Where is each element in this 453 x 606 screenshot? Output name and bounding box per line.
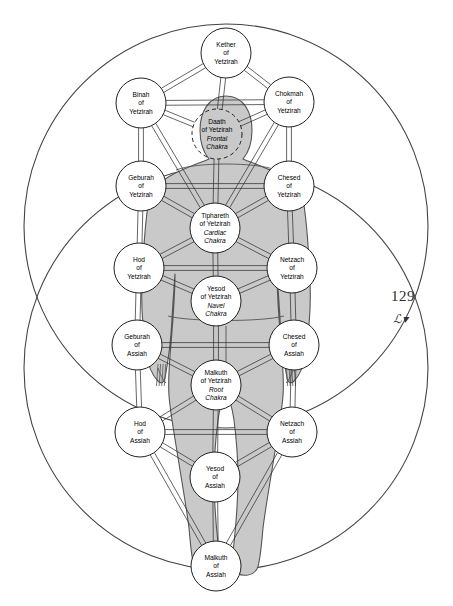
node-label-line: Chesed bbox=[283, 333, 306, 340]
node-label-line: of bbox=[286, 98, 292, 105]
node-label-line: Tiphareth bbox=[201, 212, 229, 220]
node-label-line: Geburah bbox=[124, 333, 150, 340]
node-label-line: of bbox=[212, 473, 218, 480]
node-label-line: of bbox=[291, 341, 297, 348]
node-label-line: Assiah bbox=[282, 437, 302, 444]
node-label-line: Yetzirah bbox=[129, 191, 153, 198]
tree-path-binah-yetzirah-to-daath-yetzirah bbox=[163, 110, 195, 127]
node-label-line: of bbox=[136, 264, 142, 271]
sephirah-netzach-yetzirah[interactable]: NetzachofYetzirah bbox=[267, 243, 317, 293]
sephirah-hod-assiah[interactable]: HodofAssiah bbox=[115, 407, 165, 457]
page-ornament-icon: ℒ▾ bbox=[393, 312, 437, 327]
node-label-line: Assiah bbox=[205, 482, 225, 489]
node-label-line: of Yetzirah bbox=[201, 293, 232, 300]
node-label-line: Yetzirah bbox=[280, 273, 304, 280]
node-label-line: Chakra bbox=[206, 143, 228, 150]
node-label-line: Chakra bbox=[204, 237, 226, 244]
sephirah-hod-yetzirah[interactable]: HodofYetzirah bbox=[114, 243, 164, 293]
node-label-line: Assiah bbox=[130, 437, 150, 444]
sephirah-geburah-yetzirah[interactable]: GeburahofYetzirah bbox=[116, 161, 166, 211]
node-label-line: of bbox=[134, 341, 140, 348]
sephirah-kether-yetzirah[interactable]: KetherofYetzirah bbox=[201, 28, 251, 78]
node-label-line: Yetzirah bbox=[277, 191, 301, 198]
sephirah-geburah-assiah[interactable]: GeburahofAssiah bbox=[112, 320, 162, 370]
tree-path-geburah-yetzirah-to-hod-yetzirah bbox=[137, 211, 143, 243]
node-label-line: Malkuth bbox=[204, 369, 227, 376]
node-label-line: Binah bbox=[133, 91, 150, 98]
node-label-line: Root bbox=[209, 386, 224, 393]
page-number: 129 bbox=[391, 288, 439, 305]
tree-path-geburah-assiah-to-hod-assiah bbox=[135, 370, 141, 407]
sephirah-yesod-yetzirah[interactable]: Yesodof YetzirahNavelChakra bbox=[191, 276, 241, 326]
node-label-line: Chesed bbox=[278, 174, 301, 181]
tree-of-life-diagram: KetherofYetzirahBinahofYetzirahChokmahof… bbox=[0, 0, 453, 606]
node-label-line: Chakra bbox=[205, 394, 227, 401]
node-label-line: of bbox=[286, 182, 292, 189]
node-label-line: Frontal bbox=[207, 135, 228, 142]
node-label-line: of bbox=[213, 562, 219, 569]
node-label-line: Netzach bbox=[280, 256, 305, 263]
sephirah-chesed-yetzirah[interactable]: ChesedofYetzirah bbox=[264, 161, 314, 211]
node-label-line: Geburah bbox=[128, 174, 154, 181]
node-label-line: of bbox=[138, 99, 144, 106]
node-label-line: Yetzirah bbox=[277, 107, 301, 114]
sephirah-tiphareth-yetzirah[interactable]: Tipharethof YetzirahCardiacChakra bbox=[190, 203, 240, 253]
node-label-line: of bbox=[289, 264, 295, 271]
tree-path-kether-yetzirah-to-chokmah-yetzirah bbox=[244, 66, 270, 88]
tree-path-chokmah-yetzirah-to-chesed-yetzirah bbox=[287, 127, 292, 161]
sephirah-malkuth-assiah[interactable]: MalkuthofAssiah bbox=[191, 541, 241, 591]
figure-canvas: KetherofYetzirahBinahofYetzirahChokmahof… bbox=[0, 0, 453, 606]
node-label-line: Kether bbox=[216, 41, 236, 48]
tree-path-binah-yetzirah-to-geburah-yetzirah bbox=[139, 128, 144, 161]
sephirah-netzach-assiah[interactable]: NetzachofAssiah bbox=[267, 407, 317, 457]
sephirah-chokmah-yetzirah[interactable]: ChokmahofYetzirah bbox=[264, 77, 314, 127]
node-label-line: Cardiac bbox=[204, 229, 227, 236]
node-label-line: of Yetzirah bbox=[200, 220, 231, 227]
node-label-line: Assiah bbox=[127, 350, 147, 357]
sephirah-binah-yetzirah[interactable]: BinahofYetzirah bbox=[116, 78, 166, 128]
node-label-line: Hod bbox=[133, 256, 145, 263]
node-label-line: Malkuth bbox=[204, 554, 227, 561]
node-label-line: Navel bbox=[208, 302, 225, 309]
tree-path-kether-yetzirah-to-binah-yetzirah bbox=[161, 64, 205, 93]
node-label-line: Yetzirah bbox=[127, 273, 151, 280]
tree-path-hod-yetzirah-to-geburah-assiah bbox=[135, 293, 141, 320]
node-label-line: of Yetzirah bbox=[201, 377, 232, 384]
node-label-line: Chakra bbox=[205, 310, 227, 317]
sephirah-malkuth-yetzirah[interactable]: Malkuthof YetzirahRootChakra bbox=[191, 360, 241, 410]
node-label-line: Yesod bbox=[206, 465, 224, 472]
node-label-line: Yetzirah bbox=[129, 108, 153, 115]
node-label-line: Assiah bbox=[206, 571, 226, 578]
node-label-line: Daath bbox=[208, 118, 226, 125]
node-label-line: Yesod bbox=[207, 285, 225, 292]
node-label-line: Hod bbox=[134, 420, 146, 427]
sephirah-chesed-assiah[interactable]: ChesedofAssiah bbox=[269, 320, 319, 370]
node-label-line: of bbox=[289, 428, 295, 435]
sephirah-yesod-assiah[interactable]: YesodofAssiah bbox=[190, 452, 240, 502]
node-label-line: of bbox=[137, 428, 143, 435]
node-label-line: of Yetzirah bbox=[202, 126, 233, 133]
node-label-line: Netzach bbox=[280, 420, 305, 427]
node-label-line: of bbox=[138, 182, 144, 189]
node-label-line: of bbox=[223, 49, 229, 56]
node-label-line: Yetzirah bbox=[214, 58, 238, 65]
node-label-line: Assiah bbox=[284, 350, 304, 357]
node-label-line: Chokmah bbox=[275, 90, 304, 97]
